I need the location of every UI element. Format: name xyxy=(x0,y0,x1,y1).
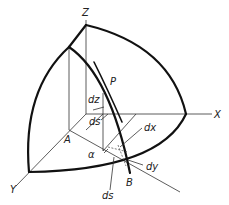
alpha-label: α xyxy=(88,149,95,160)
outer-arc-x-to-y xyxy=(29,114,186,172)
dx-label: dx xyxy=(144,122,156,133)
outer-arc-y-to-apex xyxy=(28,47,69,172)
x-axis-label: X xyxy=(213,109,222,120)
ds-upper-label: ds xyxy=(89,116,101,127)
y-axis-through-a xyxy=(16,114,86,186)
spherical-triangle-diagram: Z X Y P A B dz ds dx dy ds α xyxy=(0,0,229,205)
dz-label: dz xyxy=(88,94,100,105)
great-circle-apex-to-b xyxy=(69,47,130,173)
point-a-label: A xyxy=(63,134,71,145)
curve-through-p xyxy=(94,62,122,122)
y-axis-label: Y xyxy=(10,184,17,195)
ds-tick xyxy=(93,107,104,110)
apex-connector xyxy=(69,25,86,47)
dy-label: dy xyxy=(146,161,159,172)
dx-leader xyxy=(120,128,142,147)
ds-lower-label: ds xyxy=(102,190,114,201)
point-b-label: B xyxy=(126,177,133,188)
point-p-label: P xyxy=(110,76,117,87)
z-axis-label: Z xyxy=(81,7,90,18)
leaders xyxy=(101,114,143,190)
axes xyxy=(16,20,212,192)
outer-arc-z-to-x xyxy=(86,25,186,114)
line-a-to-b xyxy=(69,130,180,192)
